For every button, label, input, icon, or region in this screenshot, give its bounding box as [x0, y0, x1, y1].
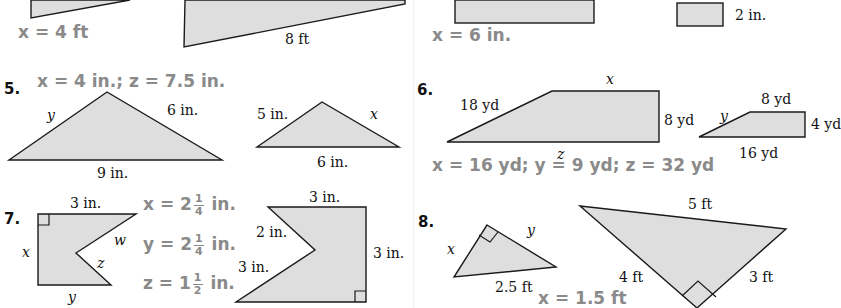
p6-small-right-label: 4 yd: [811, 117, 841, 131]
p8-large-right-label: 3 ft: [749, 270, 773, 284]
p5-large-bottom-label: 9 in.: [97, 166, 128, 180]
top-left-partial-figure: [31, 0, 130, 18]
problem-7-answer-y: y = 214 in.: [143, 233, 236, 257]
fraction-numerator: 1: [194, 193, 204, 206]
fraction-numerator: 1: [193, 272, 203, 285]
problem-7-answer-z: z = 112 in.: [143, 272, 235, 296]
fraction-denominator: 4: [194, 206, 204, 218]
p5-small-bottom-label: 6 in.: [317, 155, 348, 169]
p8-small-bottom-label: 2.5 ft: [495, 280, 533, 294]
problem-8-number: 8.: [418, 215, 434, 230]
p8-small-right-label: y: [527, 223, 535, 237]
p5-small-left-label: 5 in.: [257, 107, 288, 121]
p5-small-right-label: x: [370, 107, 378, 121]
answer-fraction: 14: [194, 233, 204, 257]
small-rectangle: [677, 3, 723, 26]
problem-6-answer: x = 16 yd; y = 9 yd; z = 32 yd: [432, 157, 714, 174]
p6-large-top-label: x: [606, 72, 614, 86]
p7-small-lower-notch-label: z: [97, 256, 104, 270]
answer-unit: in.: [212, 234, 236, 254]
p7-small-top-label: 3 in.: [70, 196, 101, 210]
p8-large-left-label: 4 ft: [619, 270, 643, 284]
problem-7-answer-x: x = 214 in.: [143, 193, 236, 217]
p8-large-top-label: 5 ft: [688, 197, 712, 211]
fraction-denominator: 4: [194, 246, 204, 258]
p7-small-bottom-label: y: [68, 290, 76, 304]
p5-large-left-label: y: [47, 108, 55, 122]
p7-large-lower-notch-label: 3 in.: [238, 260, 269, 274]
p7-large-right-label: 3 in.: [373, 246, 404, 260]
p5-large-right-label: 6 in.: [167, 103, 198, 117]
p7-large-upper-notch-label: 2 in.: [256, 225, 287, 239]
answer-whole: 2: [180, 194, 192, 214]
answer-fraction: 12: [193, 272, 203, 296]
top-right-answer: x = 6 in.: [432, 27, 511, 44]
p6-small-bottom-label: 16 yd: [739, 146, 778, 160]
p8-small-left-label: x: [447, 242, 455, 256]
answer-var: y: [143, 234, 154, 254]
small-rect-label: 2 in.: [735, 8, 766, 22]
fraction-numerator: 1: [194, 233, 204, 246]
p7-small-left-label: x: [22, 245, 30, 259]
answer-unit: in.: [211, 194, 235, 214]
p6-large-right-label: 8 yd: [664, 113, 694, 127]
answer-unit: in.: [210, 273, 234, 293]
problem-8-answer: x = 1.5 ft: [538, 290, 627, 307]
problem-7-number: 7.: [4, 212, 20, 227]
answer-whole: 2: [180, 234, 192, 254]
problem-6-number: 6.: [417, 83, 433, 98]
answer-whole: 1: [179, 273, 191, 293]
p6-small-trapezoid: [699, 112, 805, 137]
p7-large-notched-rect: [236, 207, 366, 302]
problem-5-number: 5.: [4, 82, 20, 97]
p7-large-top-label: 3 in.: [309, 190, 340, 204]
problem-5-answer: x = 4 in.; z = 7.5 in.: [37, 73, 225, 90]
top-left-answer: x = 4 ft: [18, 24, 88, 41]
p8-small-triangle: [454, 225, 556, 277]
top-middle-bottom-label: 8 ft: [285, 32, 309, 46]
fraction-denominator: 2: [193, 285, 203, 297]
answer-var: x: [143, 194, 154, 214]
top-right-partial-rectangle: [455, 0, 594, 23]
answer-var: z: [143, 273, 153, 293]
p6-small-slant-label: y: [720, 109, 728, 123]
p7-small-notched-rect: [38, 214, 136, 285]
answer-fraction: 14: [194, 193, 204, 217]
p6-large-slant-label: 18 yd: [460, 98, 499, 112]
p7-small-upper-notch-label: w: [114, 233, 126, 247]
p6-small-top-label: 8 yd: [761, 92, 791, 106]
